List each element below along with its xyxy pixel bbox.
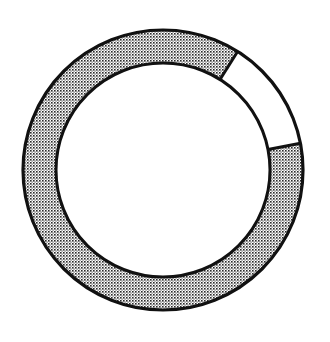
donut-chart <box>0 0 330 342</box>
donut-chart-svg <box>0 0 330 342</box>
donut-inner-ring <box>56 63 270 277</box>
donut-outlines <box>23 30 303 310</box>
